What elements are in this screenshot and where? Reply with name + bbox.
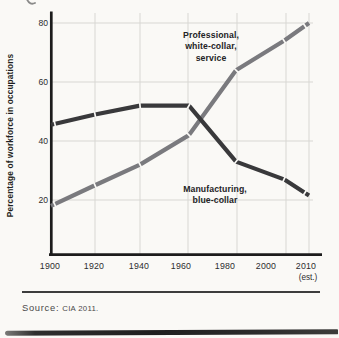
series-label-line: Manufacturing, bbox=[155, 184, 275, 195]
x-tick-label-2000: 2000 bbox=[248, 261, 284, 271]
page-edge-band bbox=[5, 329, 338, 336]
y-tick-label-60: 60 bbox=[26, 77, 48, 87]
x-tick-label-2010: 2010 bbox=[288, 261, 324, 271]
x-tick-note-est: (est.) bbox=[290, 273, 326, 282]
x-tick-label-1900: 1900 bbox=[32, 261, 68, 271]
source-divider bbox=[22, 291, 320, 293]
source-citation: CIA 2011. bbox=[62, 304, 98, 313]
top-crop-artifact bbox=[26, 0, 40, 7]
series-label-line: Professional, bbox=[156, 30, 266, 41]
page-background: Percentage of workforce in occupations 8… bbox=[0, 0, 339, 338]
series-label-professional: Professional, white-collar, service bbox=[156, 30, 266, 64]
y-tick-label-80: 80 bbox=[26, 18, 48, 28]
x-tick-label-1940: 1940 bbox=[121, 261, 157, 271]
series-line-manufacturing bbox=[51, 106, 309, 196]
source-line: Source:CIA 2011. bbox=[22, 297, 99, 315]
data-point-notch bbox=[140, 103, 141, 109]
y-axis-title: Percentage of workforce in occupations bbox=[5, 46, 16, 226]
series-label-line: blue-collar bbox=[155, 195, 275, 206]
series-label-manufacturing: Manufacturing, blue-collar bbox=[155, 184, 275, 207]
x-tick-label-1980: 1980 bbox=[207, 261, 243, 271]
x-tick-label-1960: 1960 bbox=[163, 261, 199, 271]
series-label-line: white-collar, bbox=[156, 41, 266, 52]
x-tick-label-1920: 1920 bbox=[76, 261, 112, 271]
y-tick-label-40: 40 bbox=[26, 136, 48, 146]
series-label-line: service bbox=[156, 53, 266, 64]
y-tick-label-20: 20 bbox=[26, 195, 48, 205]
source-prefix: Source: bbox=[22, 302, 59, 313]
